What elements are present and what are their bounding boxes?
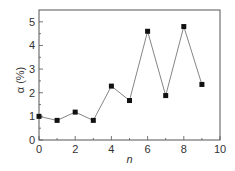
y-tick-label: 1: [29, 110, 35, 122]
y-tick-label: 0: [29, 134, 35, 146]
data-point-marker: [55, 118, 60, 123]
y-tick-label: 2: [29, 87, 35, 99]
data-point-marker: [73, 110, 78, 115]
data-point-marker: [127, 98, 132, 103]
y-tick-label: 5: [29, 16, 35, 28]
line-chart: 0246810 012345 n α (%): [0, 0, 235, 171]
data-point-marker: [91, 118, 96, 123]
data-point-marker: [181, 24, 186, 29]
data-markers: [37, 24, 205, 123]
x-tick-label: 8: [181, 143, 187, 155]
x-axis-label: n: [126, 153, 132, 165]
x-tick-label: 6: [145, 143, 151, 155]
data-point-marker: [109, 84, 114, 89]
y-tick-label: 3: [29, 63, 35, 75]
data-point-marker: [199, 82, 204, 87]
y-axis-ticks: 012345: [29, 16, 43, 146]
y-axis-label: α (%): [14, 67, 26, 94]
x-tick-label: 0: [36, 143, 42, 155]
x-tick-label: 2: [72, 143, 78, 155]
data-point-marker: [163, 93, 168, 98]
data-point-marker: [37, 114, 42, 119]
plot-frame: [39, 10, 220, 140]
x-tick-label: 4: [108, 143, 114, 155]
data-point-marker: [145, 29, 150, 34]
data-line: [39, 27, 202, 121]
x-tick-label: 10: [214, 143, 226, 155]
y-tick-label: 4: [29, 39, 35, 51]
